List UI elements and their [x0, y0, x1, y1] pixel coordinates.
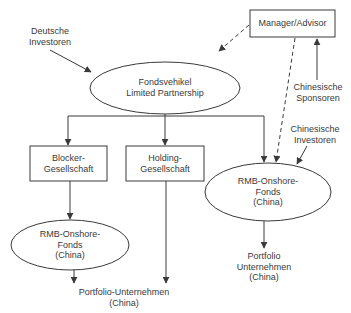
edge-chinese-investors-to-rmb-right	[297, 146, 307, 164]
edge-german-investors-to-fund	[50, 50, 91, 72]
portfolio-right-label: Portfolio Unternehmen (China)	[224, 251, 304, 283]
holding-company-label: Holding- Gesellschaft	[126, 153, 204, 174]
rmb-fund-right-label: RMB-Onshore- Fonds (China)	[218, 176, 318, 208]
rmb-fund-left-label: RMB-Onshore- Fonds (China)	[20, 229, 120, 261]
fund-vehicle-label: Fondsvehikel Limited Partnership	[105, 77, 225, 98]
chinese-sponsors-label: Chinesische Sponsoren	[287, 82, 349, 103]
chinese-investors-label: Chinesische Investoren	[283, 124, 347, 145]
portfolio-bottom-label: Portfolio-Unternehmen (China)	[64, 287, 184, 308]
manager-advisor-label: Manager/Advisor	[250, 18, 335, 29]
german-investors-label: Deutsche Investoren	[22, 26, 78, 47]
blocker-company-label: Blocker- Gesellschaft	[30, 153, 107, 174]
edge-manager-to-fund-dashed	[219, 25, 249, 51]
